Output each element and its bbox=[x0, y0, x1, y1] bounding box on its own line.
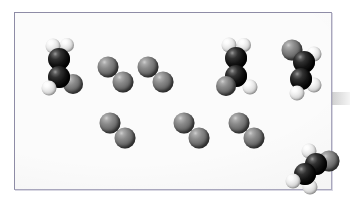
atom-halogen bbox=[189, 128, 210, 149]
atom-halogen bbox=[174, 113, 195, 134]
atom-halogen bbox=[100, 113, 121, 134]
page-edge-smudge bbox=[332, 92, 350, 105]
molecule-panel bbox=[14, 12, 332, 190]
atom-halogen bbox=[216, 76, 236, 96]
figure-canvas bbox=[0, 0, 350, 205]
atom-hydrogen bbox=[290, 86, 305, 101]
atom-halogen bbox=[138, 57, 159, 78]
atom-hydrogen bbox=[286, 174, 301, 189]
atom-hydrogen bbox=[42, 81, 57, 96]
atom-halogen bbox=[153, 72, 174, 93]
atom-halogen bbox=[229, 113, 250, 134]
atom-halogen bbox=[98, 57, 119, 78]
atom-halogen bbox=[113, 72, 134, 93]
atom-halogen bbox=[244, 128, 265, 149]
atom-halogen bbox=[115, 128, 136, 149]
